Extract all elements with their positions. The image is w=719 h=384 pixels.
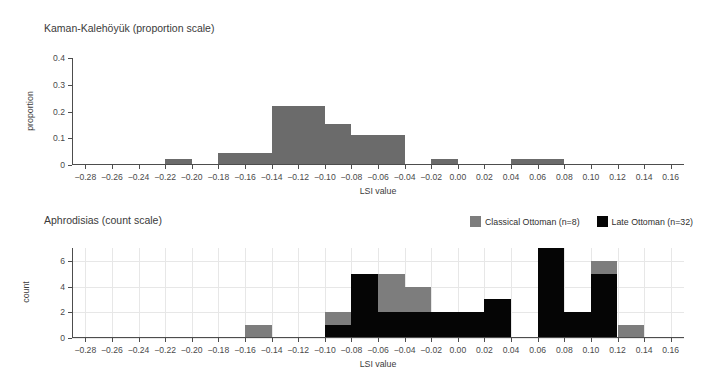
x-axis-tick <box>431 338 432 342</box>
x-axis-tick-label: −0.08 <box>341 345 363 355</box>
x-axis-tick-label: −0.26 <box>101 345 123 355</box>
x-axis-tick-label: −0.04 <box>394 172 416 182</box>
figure-container: Kaman-Kalehöyük (proportion scale) propo… <box>0 0 719 384</box>
histogram-bar <box>564 312 591 338</box>
x-axis-tick <box>139 338 140 342</box>
x-axis-tick-label: 0.16 <box>662 345 679 355</box>
x-axis-tick <box>325 338 326 342</box>
x-axis-tick <box>484 165 485 169</box>
y-axis-tick-label: 0.2 <box>38 107 65 117</box>
x-axis-tick <box>272 165 273 169</box>
y-axis-tick-label: 0.1 <box>38 133 65 143</box>
histogram-bar <box>458 312 485 338</box>
x-axis-tick-label: 0.06 <box>529 172 546 182</box>
histogram-bar <box>591 274 618 338</box>
x-axis-tick <box>245 165 246 169</box>
legend-item[interactable]: Late Ottoman (n=32) <box>597 216 693 227</box>
x-axis-tick <box>139 165 140 169</box>
x-axis-tick <box>351 338 352 342</box>
y-axis-line <box>72 58 73 165</box>
y-axis-tick-label: 2 <box>38 307 65 317</box>
legend-swatch-icon <box>597 216 608 227</box>
x-axis-tick <box>165 165 166 169</box>
x-axis-tick <box>351 165 352 169</box>
x-axis-tick <box>218 338 219 342</box>
x-axis-tick-label: −0.12 <box>287 172 309 182</box>
x-axis-tick <box>591 338 592 342</box>
x-axis-tick <box>538 165 539 169</box>
x-axis-tick <box>538 338 539 342</box>
x-axis-tick-label: −0.16 <box>234 345 256 355</box>
x-axis-tick-label: −0.08 <box>341 172 363 182</box>
x-axis-tick <box>325 165 326 169</box>
x-axis-tick-label: −0.14 <box>261 172 283 182</box>
x-axis-tick-label: −0.18 <box>207 345 229 355</box>
x-axis-tick-label: 0.00 <box>449 172 466 182</box>
histogram-bar <box>272 106 299 165</box>
x-axis-tick-label: −0.06 <box>367 345 389 355</box>
x-axis-tick <box>458 338 459 342</box>
panel-aphrodisias: Aphrodisias (count scale) Classical Otto… <box>0 196 719 384</box>
x-axis-tick-label: −0.02 <box>420 172 442 182</box>
x-axis-title-top: LSI value <box>348 186 408 196</box>
x-axis-tick <box>378 165 379 169</box>
y-axis-tick-label: 0.3 <box>38 80 65 90</box>
x-axis-tick <box>644 338 645 342</box>
histogram-bar <box>351 274 378 338</box>
x-axis-tick-label: 0.16 <box>662 172 679 182</box>
x-axis-tick-label: −0.24 <box>128 345 150 355</box>
x-axis-tick <box>192 165 193 169</box>
x-axis-tick-label: 0.14 <box>636 345 653 355</box>
x-axis-tick-label: −0.04 <box>394 345 416 355</box>
y-axis-tick <box>68 261 72 262</box>
panel-kaman-kalehoyuk: Kaman-Kalehöyük (proportion scale) propo… <box>0 0 719 196</box>
x-axis-tick <box>671 338 672 342</box>
x-axis-tick-label: 0.12 <box>609 172 626 182</box>
x-axis-tick-label: 0.02 <box>476 345 493 355</box>
x-axis-tick-label: 0.08 <box>556 345 573 355</box>
x-axis-tick-label: −0.10 <box>314 345 336 355</box>
legend-swatch-icon <box>470 216 481 227</box>
y-axis-title-top: proportion <box>25 71 35 151</box>
x-axis-title-bottom: LSI value <box>348 359 408 369</box>
x-axis-tick <box>511 338 512 342</box>
y-axis-tick <box>68 338 72 339</box>
x-axis-tick <box>165 338 166 342</box>
x-axis-tick-label: −0.24 <box>128 172 150 182</box>
y-axis-tick <box>68 58 72 59</box>
x-axis-tick-label: −0.16 <box>234 172 256 182</box>
panel-title-top: Kaman-Kalehöyük (proportion scale) <box>44 22 214 34</box>
x-axis-tick-label: −0.14 <box>261 345 283 355</box>
legend: Classical Ottoman (n=8)Late Ottoman (n=3… <box>470 216 705 227</box>
legend-label: Classical Ottoman (n=8) <box>485 217 580 227</box>
histogram-bar <box>378 274 405 313</box>
histogram-bar <box>405 287 432 313</box>
y-axis-tick <box>68 85 72 86</box>
x-axis-tick <box>618 338 619 342</box>
x-axis-tick <box>564 165 565 169</box>
plot-area-bottom <box>72 248 684 338</box>
y-axis-tick <box>68 138 72 139</box>
legend-item[interactable]: Classical Ottoman (n=8) <box>470 216 580 227</box>
x-axis-tick <box>192 338 193 342</box>
histogram-bar <box>378 312 405 338</box>
y-axis-tick <box>68 165 72 166</box>
histogram-bar <box>378 135 405 165</box>
histogram-bar <box>405 312 432 338</box>
x-axis-tick-label: 0.04 <box>503 345 520 355</box>
x-axis-tick <box>298 338 299 342</box>
x-axis-tick <box>378 338 379 342</box>
x-axis-tick <box>112 338 113 342</box>
x-axis-tick-label: −0.20 <box>181 345 203 355</box>
x-axis-tick <box>405 165 406 169</box>
y-axis-tick <box>68 312 72 313</box>
x-axis-tick-label: 0.02 <box>476 172 493 182</box>
histogram-bar <box>325 124 352 166</box>
x-axis-tick-label: −0.02 <box>420 345 442 355</box>
histogram-bar <box>298 106 325 165</box>
histogram-bar <box>431 312 458 338</box>
x-axis-tick-label: −0.22 <box>154 345 176 355</box>
x-axis-tick-label: −0.06 <box>367 172 389 182</box>
x-axis-tick-label: 0.12 <box>609 345 626 355</box>
x-axis-tick-label: −0.20 <box>181 172 203 182</box>
